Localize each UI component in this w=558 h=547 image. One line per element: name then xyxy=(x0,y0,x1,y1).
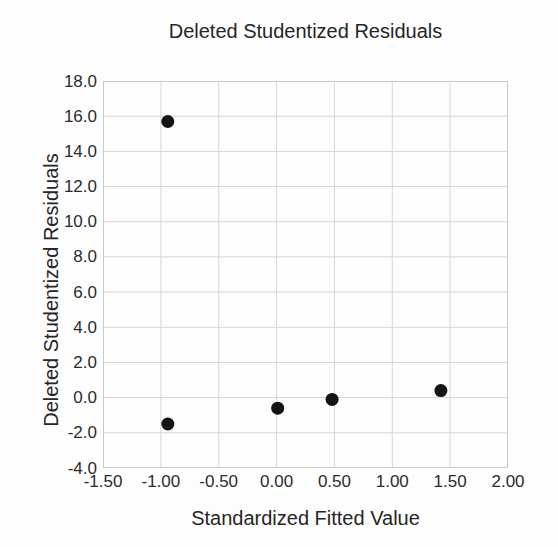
y-tick-label: 12.0 xyxy=(37,178,97,195)
y-tick-label: 18.0 xyxy=(37,73,97,90)
y-tick-label: 6.0 xyxy=(37,284,97,301)
scatter-plot-canvas xyxy=(103,81,508,468)
y-tick-label: 16.0 xyxy=(37,108,97,125)
y-tick-label: 10.0 xyxy=(37,213,97,230)
y-tick-label: 8.0 xyxy=(37,248,97,265)
data-point xyxy=(271,402,284,415)
x-tick-label: 1.50 xyxy=(420,473,480,490)
data-point xyxy=(434,384,447,397)
x-tick-label: 2.00 xyxy=(478,473,538,490)
x-axis-title: Standardized Fitted Value xyxy=(103,507,508,530)
x-tick-label: 0.00 xyxy=(247,473,307,490)
chart-title: Deleted Studentized Residuals xyxy=(103,20,508,43)
x-tick-label: -1.00 xyxy=(131,473,191,490)
x-tick-label: -1.50 xyxy=(73,473,133,490)
data-point xyxy=(161,418,174,431)
y-tick-label: 14.0 xyxy=(37,143,97,160)
y-tick-label: 0.0 xyxy=(37,389,97,406)
data-point xyxy=(326,393,339,406)
y-tick-label: 4.0 xyxy=(37,319,97,336)
x-tick-label: 1.00 xyxy=(362,473,422,490)
plot-area xyxy=(103,81,508,468)
data-point xyxy=(161,115,174,128)
y-tick-label: -2.0 xyxy=(37,424,97,441)
x-tick-label: -0.50 xyxy=(189,473,249,490)
x-tick-label: 0.50 xyxy=(304,473,364,490)
scatter-chart-figure: Deleted Studentized Residuals Deleted St… xyxy=(0,0,558,547)
y-tick-label: 2.0 xyxy=(37,354,97,371)
